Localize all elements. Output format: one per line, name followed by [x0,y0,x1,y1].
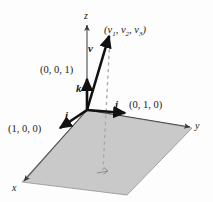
y-axis-label: y [195,121,199,131]
k-vector-label: k [76,83,82,94]
v-component-3-sub: 3 [139,30,143,38]
v-component-2-sub: 2 [126,30,130,38]
v-vector-label: v [88,43,93,54]
vector-diagram-figure: z y x (0, 0, 1) k (1, 0, 0) i j (0, 1, 0… [0,0,213,202]
j-vector-label: j [115,99,118,110]
x-axis-label: x [12,183,16,193]
v-tip-point-label: (v1, v2, v3) [104,25,146,36]
j-coordinates-label: (0, 1, 0) [129,100,162,111]
z-axis-label: z [84,11,88,21]
i-coordinates-label: (1, 0, 0) [8,124,41,135]
v-component-1-sub: 1 [112,30,116,38]
i-vector-label: i [65,110,68,121]
k-coordinates-label: (0, 0, 1) [40,65,73,76]
